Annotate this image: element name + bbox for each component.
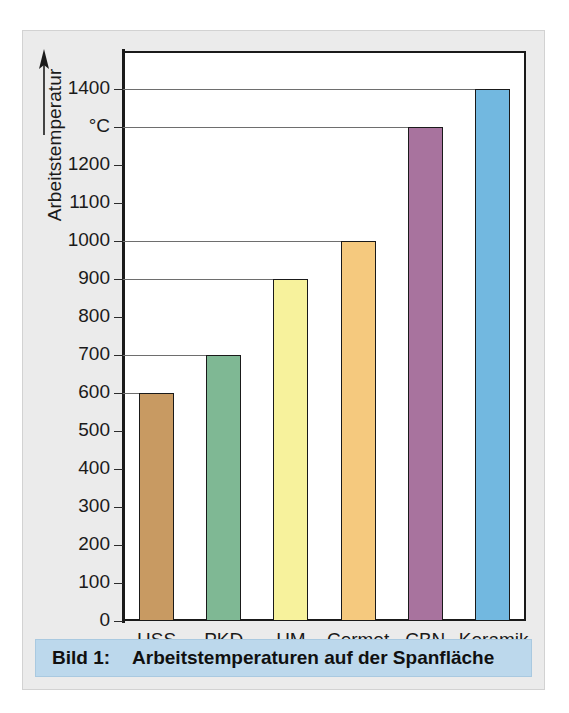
y-tick-mark xyxy=(114,545,123,546)
y-tick-mark xyxy=(114,469,123,470)
y-tick-label: 500 xyxy=(78,420,110,440)
y-tick-label: 800 xyxy=(78,306,110,326)
y-tick: 400 xyxy=(45,469,123,470)
y-tick-mark xyxy=(114,203,123,204)
y-tick-mark xyxy=(114,621,123,622)
y-tick-label: 1000 xyxy=(68,230,110,250)
y-tick: 200 xyxy=(45,545,123,546)
y-tick: 0 xyxy=(45,621,123,622)
y-tick-label: 300 xyxy=(78,496,110,516)
bars-layer xyxy=(123,51,526,621)
y-tick-label: 600 xyxy=(78,382,110,402)
y-tick: 1000 xyxy=(45,241,123,242)
y-tick-label: 0 xyxy=(99,610,110,630)
y-tick-label: 1100 xyxy=(69,192,110,212)
y-axis-title-group: Arbeitstemperatur xyxy=(23,49,65,609)
y-tick-mark xyxy=(114,393,123,394)
bar-cermet xyxy=(341,241,376,621)
y-axis-title: Arbeitstemperatur xyxy=(44,69,66,222)
figure-panel: Arbeitstemperatur 1400°C1200110010009008… xyxy=(22,30,545,690)
y-tick-mark xyxy=(114,279,123,280)
y-tick-mark xyxy=(114,165,123,166)
bar-hm xyxy=(273,279,308,621)
caption-number: Bild 1: xyxy=(52,647,110,669)
y-tick-label: 1400 xyxy=(68,78,110,98)
y-tick-label: 100 xyxy=(78,572,110,592)
y-tick: 800 xyxy=(45,317,123,318)
y-tick: 500 xyxy=(45,431,123,432)
y-tick-mark xyxy=(114,317,123,318)
y-tick-mark xyxy=(114,241,123,242)
y-tick-label: 700 xyxy=(78,344,110,364)
bar-keramik xyxy=(475,89,510,621)
y-tick-mark xyxy=(114,127,123,128)
y-tick-mark xyxy=(114,507,123,508)
y-tick-label: 200 xyxy=(78,534,110,554)
bar-hss xyxy=(139,393,174,621)
y-tick: 300 xyxy=(45,507,123,508)
y-tick-mark xyxy=(114,583,123,584)
y-tick: 600 xyxy=(45,393,123,394)
y-tick: 1400 xyxy=(45,89,123,90)
y-tick: 100 xyxy=(45,583,123,584)
y-tick-label: 1200 xyxy=(68,154,110,174)
y-tick: 1200 xyxy=(45,165,123,166)
figure-caption: Bild 1: Arbeitstemperaturen auf der Span… xyxy=(35,639,532,677)
plot-area: 1400°C1200110010009008007006005004003002… xyxy=(123,51,526,621)
caption-text: Arbeitstemperaturen auf der Spanfläche xyxy=(132,647,494,669)
y-tick-mark xyxy=(114,431,123,432)
bar-cbn xyxy=(408,127,443,621)
y-tick: °C xyxy=(45,127,123,128)
y-tick-label: 400 xyxy=(78,458,110,478)
y-tick-mark xyxy=(114,355,123,356)
y-tick: 1100 xyxy=(45,203,123,204)
y-tick: 700 xyxy=(45,355,123,356)
bar-pkd xyxy=(206,355,241,621)
y-tick-label: °C xyxy=(89,116,110,136)
y-tick: 900 xyxy=(45,279,123,280)
y-tick-mark xyxy=(114,89,123,90)
y-tick-label: 900 xyxy=(78,268,110,288)
